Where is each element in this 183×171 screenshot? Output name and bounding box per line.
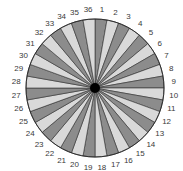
sector-label-4: 4 [138,19,143,28]
sector-label-24: 24 [26,129,35,138]
sector-label-1: 1 [100,5,105,14]
sector-label-26: 26 [14,104,23,113]
sector-label-8: 8 [169,64,174,73]
sector-label-33: 33 [45,19,54,28]
sector-label-15: 15 [136,149,145,158]
sector-label-25: 25 [19,117,28,126]
sector-label-14: 14 [146,140,155,149]
sector-label-32: 32 [35,28,44,37]
sector-label-20: 20 [70,160,79,169]
sector-label-11: 11 [167,104,176,113]
sector-label-12: 12 [162,117,171,126]
sector-label-30: 30 [19,51,28,60]
sector-label-23: 23 [35,140,44,149]
sector-label-19: 19 [84,163,93,171]
sector-label-36: 36 [84,5,93,14]
center-hub [90,83,100,93]
sector-label-18: 18 [97,163,106,171]
sector-label-35: 35 [70,8,79,17]
sector-label-31: 31 [26,39,35,48]
sector-label-21: 21 [57,156,66,165]
sector-label-2: 2 [113,8,118,17]
sector-label-29: 29 [14,64,23,73]
sector-wheel: 1234567891011121314151617181920212223242… [0,0,183,171]
sector-label-16: 16 [124,156,133,165]
sector-label-3: 3 [126,12,131,21]
sector-label-10: 10 [169,91,178,100]
sector-label-22: 22 [45,149,54,158]
sector-label-27: 27 [12,91,21,100]
sector-label-13: 13 [155,129,164,138]
sector-label-6: 6 [157,39,162,48]
sector-label-28: 28 [12,77,21,86]
sector-label-9: 9 [171,77,176,86]
sector-label-17: 17 [111,160,120,169]
sector-label-5: 5 [149,28,154,37]
sector-label-7: 7 [164,51,169,60]
sector-label-34: 34 [57,12,66,21]
